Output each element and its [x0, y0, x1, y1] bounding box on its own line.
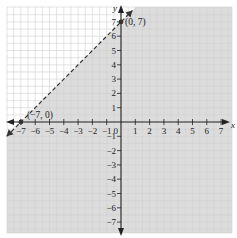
x-axis-label: x [230, 120, 235, 130]
point-label: (0, 7) [125, 17, 146, 28]
inequality-graph: −7−6−5−4−3−2−112345677654321−1−2−3−4−5−6… [0, 0, 237, 238]
shaded-area [7, 7, 232, 233]
y-tick-label: −4 [106, 174, 116, 184]
y-tick-label: 5 [112, 46, 117, 56]
y-tick-label: −2 [106, 146, 116, 156]
y-tick-label: 7 [112, 17, 117, 27]
y-axis-label: y [112, 3, 117, 13]
y-axis-up-arrow-icon [118, 5, 124, 13]
y-tick-label: −6 [106, 203, 116, 213]
y-tick-label: −5 [106, 189, 116, 199]
x-tick-label: −2 [88, 126, 98, 136]
point-label: (−7, 0) [27, 110, 53, 121]
x-tick-label: −6 [30, 126, 40, 136]
y-tick-label: −3 [106, 160, 116, 170]
x-tick-label: 3 [162, 126, 167, 136]
y-tick-label: 4 [112, 60, 117, 70]
y-tick-label: 3 [112, 74, 117, 84]
x-tick-label: −3 [73, 126, 83, 136]
origin-label: 0 [114, 126, 119, 136]
point-marker [119, 20, 124, 25]
x-tick-label: 2 [147, 126, 152, 136]
y-tick-label: 1 [112, 103, 117, 113]
x-tick-label: −5 [45, 126, 55, 136]
y-tick-label: 2 [112, 88, 117, 98]
x-tick-label: −4 [59, 126, 69, 136]
x-tick-label: 6 [205, 126, 210, 136]
x-tick-label: 7 [219, 126, 224, 136]
x-tick-label: 4 [176, 126, 181, 136]
x-tick-label: 1 [133, 126, 138, 136]
x-tick-label: −7 [16, 126, 26, 136]
x-tick-label: 5 [190, 126, 195, 136]
shaded-region [7, 7, 232, 233]
y-tick-label: −7 [106, 217, 116, 227]
point-marker [19, 120, 24, 125]
y-tick-label: 6 [112, 31, 117, 41]
